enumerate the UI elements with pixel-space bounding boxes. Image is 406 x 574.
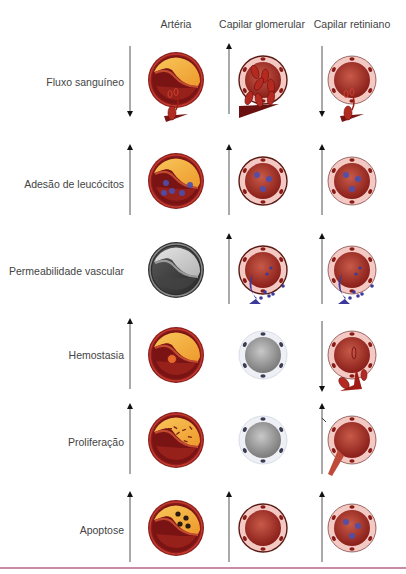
cell-capilar_retiniano-row-1 <box>328 56 376 122</box>
vascular-diagram <box>0 0 406 574</box>
leukocyte <box>343 172 349 178</box>
cell-arteria-row-6 <box>148 500 204 556</box>
endothelial-nucleus <box>260 505 265 509</box>
leukocyte <box>163 180 169 186</box>
bottom-rule <box>0 567 406 569</box>
endothelial-nucleus <box>260 459 265 463</box>
leaked-protein <box>370 284 374 288</box>
leaked-protein <box>348 296 352 300</box>
endothelial-nucleus <box>260 200 265 204</box>
red-blood-cell <box>344 106 352 120</box>
capillary-lumen <box>334 510 370 546</box>
cell-capilar_glomerular-row-1 <box>239 56 287 118</box>
red-blood-cell <box>361 370 367 381</box>
leukocyte <box>179 190 185 196</box>
cell-capilar_glomerular-row-3 <box>239 246 287 304</box>
proliferating-cell <box>168 428 172 429</box>
capillary-lumen <box>245 163 281 199</box>
cell-capilar_retiniano-row-6 <box>328 504 376 552</box>
endothelial-nucleus <box>260 332 265 336</box>
leaked-protein <box>259 296 263 300</box>
apoptotic-body <box>185 523 190 528</box>
capillary-lumen <box>334 62 370 98</box>
leaked-protein <box>281 284 285 288</box>
endothelial-nucleus <box>349 417 354 421</box>
leukocyte <box>161 190 167 196</box>
cell-capilar_glomerular-row-5 <box>239 416 287 464</box>
leaked-protein <box>263 290 267 294</box>
endothelial-nucleus <box>260 547 265 551</box>
leukocyte <box>349 186 355 192</box>
leukocyte <box>260 186 266 192</box>
cell-capilar_glomerular-row-2 <box>239 157 287 205</box>
leukocyte <box>349 533 355 539</box>
leaked-protein <box>265 272 268 275</box>
cell-arteria-row-5 <box>148 412 204 468</box>
cell-capilar_retiniano-row-5 <box>322 416 376 476</box>
leaked-protein <box>358 266 361 269</box>
leaked-protein <box>269 266 272 269</box>
cell-capilar_glomerular-row-6 <box>239 504 287 552</box>
endothelial-nucleus <box>260 417 265 421</box>
capillary-lumen <box>245 510 281 546</box>
cell-arteria-row-4 <box>148 327 204 383</box>
endothelial-nucleus <box>260 57 265 61</box>
apoptotic-body <box>183 515 188 520</box>
capillary-lumen <box>245 337 281 373</box>
cell-capilar_retiniano-row-4 <box>328 331 376 391</box>
endothelial-nucleus <box>349 57 354 61</box>
endothelial-nucleus <box>349 374 354 378</box>
leaked-protein <box>356 294 360 298</box>
capillary-lumen <box>245 422 281 458</box>
cell-capilar_glomerular-row-4 <box>239 331 287 379</box>
leaked-protein <box>271 292 275 296</box>
leukocyte <box>355 176 361 182</box>
platelet-clot <box>168 355 177 364</box>
leukocyte <box>169 188 175 194</box>
endothelial-nucleus <box>349 547 354 551</box>
leaked-protein <box>267 294 271 298</box>
endothelial-nucleus <box>349 247 354 251</box>
endothelial-nucleus <box>349 200 354 204</box>
red-blood-cell <box>168 106 176 120</box>
leukocyte <box>187 182 193 188</box>
endothelial-nucleus <box>349 332 354 336</box>
endothelial-nucleus <box>260 374 265 378</box>
cell-capilar_retiniano-row-2 <box>328 157 376 205</box>
leukocyte <box>343 519 349 525</box>
leukocyte <box>254 172 260 178</box>
apoptotic-body <box>175 511 180 516</box>
endothelial-nucleus <box>349 158 354 162</box>
leaked-protein <box>352 290 356 294</box>
cell-arteria-row-3 <box>148 242 204 298</box>
cell-arteria-row-2 <box>148 153 204 209</box>
endothelial-nucleus <box>349 459 354 463</box>
cell-arteria-row-1 <box>148 52 204 122</box>
leukocyte <box>355 523 361 529</box>
leaked-protein <box>354 272 357 275</box>
endothelial-nucleus <box>349 505 354 509</box>
apoptotic-body <box>177 521 182 526</box>
endothelial-nucleus <box>260 247 265 251</box>
capillary-lumen <box>334 163 370 199</box>
sprout-tick <box>322 418 326 422</box>
leaked-protein <box>360 292 364 296</box>
cell-capilar_retiniano-row-3 <box>328 246 376 304</box>
leukocyte <box>266 176 272 182</box>
endothelial-nucleus <box>260 158 265 162</box>
